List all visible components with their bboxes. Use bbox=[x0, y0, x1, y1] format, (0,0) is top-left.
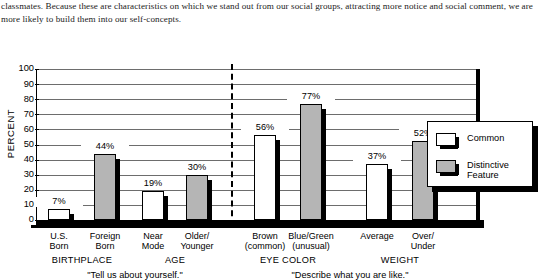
group-label: EYE COLOR bbox=[228, 255, 348, 265]
bar-common bbox=[48, 209, 70, 220]
legend-label: Common bbox=[467, 133, 504, 143]
category-label: Older/Younger bbox=[167, 231, 227, 252]
y-tick-mark bbox=[35, 84, 39, 85]
bar-common bbox=[254, 135, 276, 220]
bar-value-label: 44% bbox=[81, 142, 129, 151]
group-label: WEIGHT bbox=[340, 255, 460, 265]
bar-distinct bbox=[300, 104, 322, 220]
y-tick-label: 100 bbox=[8, 64, 34, 73]
bar-value-label: 7% bbox=[35, 197, 83, 206]
bar-value-label: 19% bbox=[129, 179, 177, 188]
plot-baseline-shadow bbox=[31, 225, 484, 228]
y-tick-label: 30 bbox=[8, 170, 34, 179]
bar-value-label: 30% bbox=[173, 163, 221, 172]
y-tick-label: 10 bbox=[8, 200, 34, 209]
y-tick-mark bbox=[35, 69, 39, 70]
gridline bbox=[37, 114, 479, 115]
y-tick-mark bbox=[35, 99, 39, 100]
body-paragraph: classmates. Because these are characteri… bbox=[1, 0, 546, 26]
gridline bbox=[37, 99, 479, 100]
y-tick-label: 0 bbox=[8, 215, 34, 224]
y-tick-label: 90 bbox=[8, 80, 34, 89]
legend-swatch-common bbox=[436, 133, 456, 146]
bar-distinct bbox=[186, 175, 208, 220]
legend-swatch-distinct bbox=[436, 160, 456, 173]
legend-label: Distinctive Feature bbox=[467, 160, 509, 181]
category-label: Blue/Green(unusual) bbox=[281, 231, 341, 252]
bar-value-label: 77% bbox=[287, 92, 335, 101]
y-axis-label: PERCENT bbox=[5, 102, 16, 166]
y-tick-mark bbox=[35, 114, 39, 115]
section-divider bbox=[231, 64, 233, 226]
legend-item: Distinctive Feature bbox=[436, 160, 509, 181]
chart-legend: CommonDistinctive Feature bbox=[427, 121, 533, 187]
y-tick-mark bbox=[35, 190, 39, 191]
category-label: Over/Under bbox=[393, 231, 453, 252]
legend-item: Common bbox=[436, 133, 504, 146]
section-quote: "Describe what you are like." bbox=[220, 270, 480, 280]
gridline bbox=[37, 84, 479, 85]
y-tick-mark bbox=[35, 160, 39, 161]
y-tick-mark bbox=[35, 145, 39, 146]
bar-value-label: 56% bbox=[241, 123, 289, 132]
bar-chart-figure: 1009080706050403020100 PERCENT 7%44%19%3… bbox=[0, 28, 551, 271]
bar-common bbox=[142, 191, 164, 220]
bar-distinct bbox=[94, 154, 116, 220]
bar-common bbox=[366, 164, 388, 220]
y-tick-label: 20 bbox=[8, 185, 34, 194]
group-label: AGE bbox=[115, 255, 235, 265]
y-tick-mark bbox=[35, 129, 39, 130]
y-tick-mark bbox=[35, 220, 39, 221]
y-tick-mark bbox=[35, 175, 39, 176]
bar-value-label: 37% bbox=[353, 152, 401, 161]
gridline bbox=[37, 69, 479, 70]
